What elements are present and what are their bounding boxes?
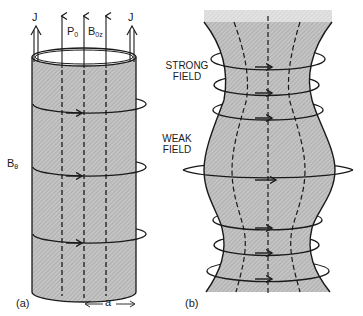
weak-field-line2: FIELD [156,144,198,155]
pressure-subscript: 0 [74,31,78,38]
weak-field-label: WEAK FIELD [156,133,198,155]
radius-label: a [105,297,111,308]
azimuthal-field-subscript: θ [14,163,18,170]
diagram-canvas [0,0,363,316]
panel-label-a: (a) [16,298,29,309]
strong-field-line2: FIELD [164,71,210,82]
figure-b-sausage [183,10,353,296]
current-label-right: J [128,12,134,23]
pressure-label: P0 [67,26,78,40]
figure-a-cylinder [31,16,146,307]
weak-field-line1: WEAK [156,133,198,144]
axial-field-subscript: 0z [95,31,102,38]
azimuthal-field-label: Bθ [7,158,18,172]
strong-field-line1: STRONG [164,60,210,71]
strong-field-label: STRONG FIELD [164,60,210,82]
panel-label-b: (b) [185,298,198,309]
axial-field-label: B0z [88,26,103,40]
current-label-left: J [32,12,38,23]
